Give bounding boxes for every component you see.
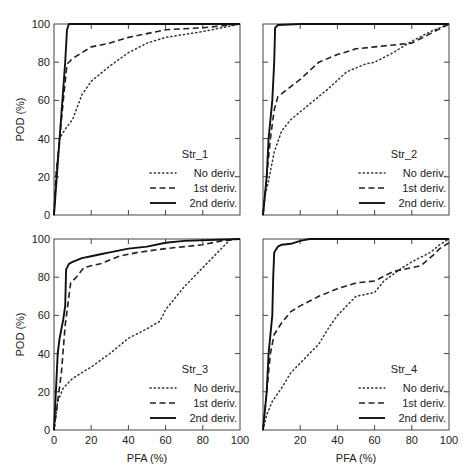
y-tick-label: 100 — [32, 233, 50, 245]
y-tick-label: 60 — [38, 309, 50, 321]
y-tick-label: 40 — [38, 348, 50, 360]
x-tick-label: 20 — [85, 434, 97, 446]
panel-str-4: 20406080100PFA (%)Str_4No deriv.1st deri… — [263, 239, 458, 464]
figure-canvas: 020406080100POD (%)Str_1No deriv.1st der… — [0, 0, 470, 476]
legend: Str_2No deriv.1st deriv.2nd deriv. — [359, 148, 446, 209]
x-tick-label: 40 — [331, 434, 343, 446]
legend-label: 1st deriv. — [402, 182, 446, 194]
y-tick-label: 100 — [32, 18, 50, 30]
legend-label: 1st deriv. — [193, 182, 237, 194]
x-tick-label: 20 — [294, 434, 306, 446]
y-tick-label: 60 — [38, 94, 50, 106]
legend-title: Str_4 — [391, 363, 417, 375]
x-tick-label: 60 — [159, 434, 171, 446]
x-axis-label: PFA (%) — [336, 452, 376, 464]
legend-label: 1st deriv. — [193, 397, 237, 409]
y-axis-label: POD (%) — [14, 313, 26, 357]
panel-str-2: Str_2No deriv.1st deriv.2nd deriv. — [263, 24, 449, 215]
legend-title: Str_3 — [182, 363, 208, 375]
x-tick-label: 0 — [51, 434, 57, 446]
legend-label: No deriv. — [403, 382, 446, 394]
legend: Str_3No deriv.1st deriv.2nd deriv. — [150, 363, 237, 424]
y-tick-label: 20 — [38, 171, 50, 183]
legend-label: No deriv. — [194, 167, 237, 179]
x-tick-label: 40 — [122, 434, 134, 446]
y-tick-label: 0 — [44, 209, 50, 221]
roc-figure: 020406080100POD (%)Str_1No deriv.1st der… — [0, 0, 470, 476]
legend-label: 2nd deriv. — [399, 412, 447, 424]
y-tick-label: 20 — [38, 386, 50, 398]
panel-str-3: 020406080100POD (%)020406080100PFA (%)St… — [14, 233, 249, 464]
legend: Str_1No deriv.1st deriv.2nd deriv. — [150, 148, 237, 209]
y-tick-label: 80 — [38, 56, 50, 68]
y-tick-label: 0 — [44, 424, 50, 436]
legend-label: 2nd deriv. — [399, 197, 447, 209]
x-axis-label: PFA (%) — [127, 452, 167, 464]
x-tick-label: 80 — [197, 434, 209, 446]
legend-label: 2nd deriv. — [190, 412, 238, 424]
y-tick-label: 80 — [38, 271, 50, 283]
legend: Str_4No deriv.1st deriv.2nd deriv. — [359, 363, 446, 424]
legend-title: Str_2 — [391, 148, 417, 160]
legend-label: No deriv. — [403, 167, 446, 179]
legend-title: Str_1 — [182, 148, 208, 160]
legend-label: 2nd deriv. — [190, 197, 238, 209]
x-tick-label: 80 — [406, 434, 418, 446]
x-tick-label: 100 — [440, 434, 458, 446]
panel-str-1: 020406080100POD (%)Str_1No deriv.1st der… — [14, 18, 240, 221]
legend-label: No deriv. — [194, 382, 237, 394]
x-tick-label: 60 — [368, 434, 380, 446]
y-axis-label: POD (%) — [14, 98, 26, 142]
y-tick-label: 40 — [38, 133, 50, 145]
legend-label: 1st deriv. — [402, 397, 446, 409]
x-tick-label: 100 — [231, 434, 249, 446]
